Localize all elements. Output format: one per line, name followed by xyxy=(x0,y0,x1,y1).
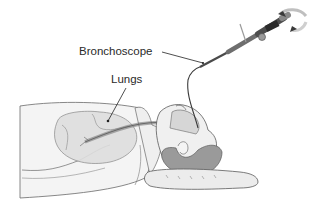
pillow xyxy=(144,169,258,189)
bronchoscope-leader-line xyxy=(162,52,203,63)
bronchoscopy-illustration: Bronchoscope Lungs xyxy=(0,0,326,215)
leader-dot xyxy=(202,62,204,64)
lungs-label: Lungs xyxy=(111,73,143,85)
leader-dot xyxy=(107,120,110,123)
bronchoscope-handle xyxy=(200,15,288,67)
bronchoscope-label: Bronchoscope xyxy=(79,45,153,57)
